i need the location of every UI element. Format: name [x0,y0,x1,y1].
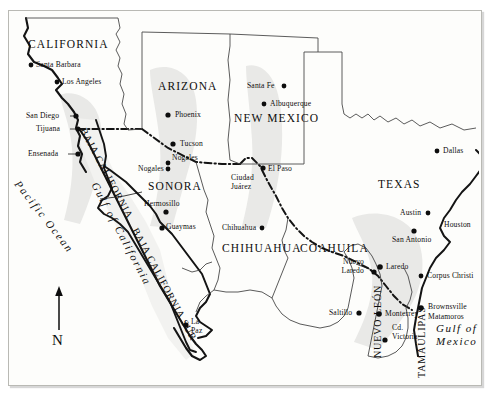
city-label-phoenix: Phoenix [175,110,201,119]
city-dot-chihuahua [260,226,265,231]
city-label-santa-fe: Santa Fe [247,81,275,90]
city-dot-san-diego [73,113,78,118]
city-dot-el-paso [260,165,265,170]
city-label-la-paz: La Paz [191,318,202,335]
city-label-matamoros: Matamoros [428,312,464,321]
city-label-ensenada: Ensenada [28,149,58,158]
city-dot-nogales-us [166,161,171,166]
city-dot-houston [481,223,486,228]
city-dot-corpus-christi [419,274,424,279]
city-label-chihuahua-city: Chihuahua [222,223,256,232]
city-label-monterrey: Monterrey [385,309,418,318]
city-dot-santa-barbara [29,63,34,68]
state-label-california: CALIFORNIA [28,38,109,50]
city-dot-albuquerque [262,102,267,107]
city-dot-santa-fe [282,84,287,89]
city-label-dallas: Dallas [443,146,463,155]
gulf-of-mexico-line2: Mexico [436,335,477,348]
water-label-gulf-of-mexico: Gulf of Mexico [436,322,477,348]
ciudad-juarez-line2: Juárez [231,183,254,192]
city-label-brownsville: Brownsville [428,302,467,311]
city-label-cd-victoria: Cd. Victoria [392,324,418,341]
state-label-texas: TEXAS [378,178,421,190]
state-label-chihuahua: CHIHUAHUA [222,242,302,254]
city-dot-phoenix [165,112,170,117]
city-label-nogales-mx: Nogales [138,164,164,173]
city-dot-hermosillo [163,209,168,214]
city-label-laredo: Laredo [386,262,408,271]
city-label-saltillo: Saltillo [329,308,352,317]
city-label-san-diego: San Diego [26,111,59,120]
city-dot-saltillo [356,310,361,315]
nuevo-laredo-line2: Laredo [330,267,364,276]
city-label-tijuana: Tijuana [36,124,60,133]
city-label-austin: Austin [400,208,421,217]
city-label-corpus-christi: Corpus Christi [427,271,474,280]
city-label-albuquerque: Albuquerque [270,99,311,108]
map-container: CALIFORNIA ARIZONA NEW MEXICO TEXAS BAJA… [0,0,499,401]
compass-label-north: N [52,332,63,349]
city-dot-nuevo-laredo [371,269,376,274]
state-label-arizona: ARIZONA [158,80,217,92]
city-label-los-angeles: Los Angeles [62,77,101,86]
city-dot-los-angeles [55,80,60,85]
state-label-nuevo-leon: NUEVO LEÓN [372,285,383,358]
cd-victoria-line2: Victoria [392,333,418,342]
state-label-sonora: SONORA [148,180,202,192]
city-label-nuevo-laredo: Nuevo Laredo [330,258,364,275]
compass-arrow [55,286,63,330]
city-dot-ensenada [75,151,80,156]
city-dot-guaymas [159,225,164,230]
city-dot-dallas [435,149,440,154]
city-dot-san-antonio [411,228,416,233]
city-dot-laredo [377,264,383,270]
state-label-coahuila: COAHUILA [300,242,369,254]
city-label-ciudad-juarez: Ciudad Juárez [231,174,254,191]
city-dot-tucson [170,141,175,146]
city-label-santa-barbara: Santa Barbara [36,60,81,69]
city-dot-austin [426,211,431,216]
la-paz-line2: Paz [191,327,202,336]
city-dot-nogales-mx [166,167,171,172]
city-label-guaymas: Guaymas [166,222,196,231]
city-label-hermosillo: Hermosillo [144,199,180,208]
city-dot-cd-victoria [382,337,387,342]
gulf-of-mexico-line1: Gulf of [436,322,477,335]
state-label-new-mexico: NEW MEXICO [234,112,319,124]
city-label-nogales-us: Nogales [172,153,198,162]
city-label-houston: Houston [444,220,471,229]
city-label-tucson: Tucson [180,139,203,148]
city-label-el-paso: El Paso [268,164,292,173]
city-label-san-antonio: San Antonio [392,235,431,244]
